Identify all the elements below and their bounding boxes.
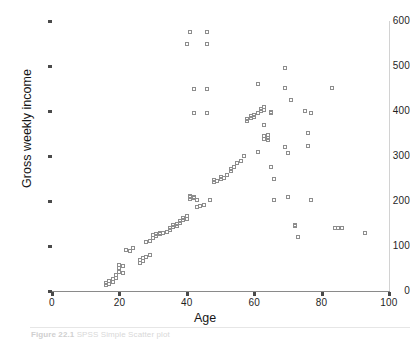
data-point [306,144,310,148]
data-point [296,235,300,239]
figure-scatter-plot: 0100200300400500600 020406080100 Gross w… [0,0,410,340]
data-point [185,42,189,46]
data-point [242,154,246,158]
data-point [363,231,367,235]
x-axis-line [52,291,390,292]
data-point [205,87,209,91]
data-point [148,253,152,257]
data-point [330,86,334,90]
x-tick-mark [186,292,189,296]
data-point [208,198,212,202]
x-tick-mark [51,292,54,296]
x-tick-label: 40 [167,298,207,308]
data-point [303,109,307,113]
data-point [293,223,297,227]
data-point [266,138,270,142]
x-tick-label: 80 [302,298,342,308]
data-point [256,150,260,154]
x-axis-title: Age [0,312,410,325]
x-tick-label: 100 [369,298,409,308]
data-point [272,177,276,181]
caption-number: Figure 22.1 [31,330,74,339]
data-point [286,195,290,199]
plot-area [52,21,389,291]
data-point [188,30,192,34]
data-point [340,226,344,230]
data-point [121,264,125,268]
data-point [262,108,266,112]
caption-line: Figure 22.1 SPSS Simple Scatter plot [31,330,170,339]
data-point [256,82,260,86]
data-point [306,131,310,135]
x-tick-label: 0 [32,298,72,308]
data-point [262,123,266,127]
x-tick-mark [321,292,324,296]
data-point [205,30,209,34]
y-axis-title: Gross weekly income [21,49,34,209]
x-tick-mark [253,292,256,296]
figure-caption: Figure 22.1 SPSS Simple Scatter plot [0,327,410,340]
data-point [283,66,287,70]
x-tick-mark [118,292,121,296]
data-point [309,111,313,115]
data-point [195,198,199,202]
data-point [202,203,206,207]
data-point [192,111,196,115]
data-point [269,110,273,114]
data-point [232,165,236,169]
data-point [205,111,209,115]
data-point [269,165,273,169]
x-tick-label: 60 [234,298,274,308]
x-tick-label: 20 [99,298,139,308]
data-point [192,87,196,91]
data-point [131,246,135,250]
caption-divider [30,327,410,328]
data-point [225,173,229,177]
x-tick-mark [388,292,391,296]
data-point [185,214,189,218]
data-point [121,271,125,275]
data-point [239,159,243,163]
caption-body: SPSS Simple Scatter plot [77,330,170,339]
data-point [283,145,287,149]
data-point [283,86,287,90]
data-point [141,259,145,263]
data-point [205,42,209,46]
data-point [272,198,276,202]
data-point [289,98,293,102]
data-point [286,151,290,155]
data-point [309,198,313,202]
